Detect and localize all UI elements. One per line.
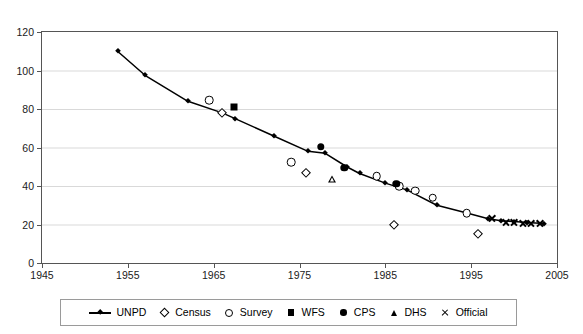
y-tick-label-100: 100 (0, 66, 34, 76)
y-tick-60 (37, 148, 41, 149)
data-markers (42, 32, 557, 263)
datapoint-unpd-12 (434, 202, 440, 208)
y-tick-label-120: 120 (0, 27, 34, 37)
datapoint-unpd-7 (322, 150, 328, 156)
x-tick-1965 (214, 264, 215, 268)
datapoint-unpd-1 (142, 72, 148, 78)
legend-item-survey[interactable]: Survey (224, 307, 273, 319)
datapoint-census-0 (217, 108, 227, 118)
open-diamond-icon (159, 307, 170, 319)
legend-item-census[interactable]: Census (159, 307, 211, 319)
open-triangle-icon (388, 307, 399, 319)
datapoint-survey-2 (372, 172, 381, 181)
chart-legend: UNPD Census Survey WFS (60, 299, 517, 326)
x-tick-1985 (385, 264, 386, 268)
x-tick-1955 (128, 264, 129, 268)
y-tick-label-60: 60 (0, 143, 34, 153)
line-diamond-icon (89, 307, 111, 319)
datapoint-unpd-5 (271, 133, 277, 139)
datapoint-official-5 (535, 219, 544, 228)
datapoint-census-3 (473, 229, 483, 239)
plot-area (41, 31, 558, 264)
x-tick-label-1955: 1955 (106, 270, 150, 280)
datapoint-survey-0 (205, 96, 214, 105)
legend-item-official[interactable]: Official (440, 307, 488, 319)
datapoint-survey-5 (428, 193, 437, 202)
datapoint-unpd-10 (382, 180, 388, 186)
datapoint-wfs-0 (231, 104, 238, 111)
chart-container: 120 100 80 60 40 20 0 1945 1955 1965 197… (0, 0, 583, 334)
x-tick-1995 (471, 264, 472, 268)
legend-label-census: Census (175, 307, 211, 318)
legend-label-dhs: DHS (404, 307, 426, 318)
x-tick-1945 (42, 264, 43, 268)
x-tick-label-1965: 1965 (192, 270, 236, 280)
filled-circle-icon (338, 307, 349, 319)
datapoint-cps-0 (317, 143, 324, 150)
filled-square-icon (286, 307, 297, 319)
x-tick-label-2005: 2005 (535, 270, 579, 280)
datapoint-unpd-2 (185, 98, 191, 104)
x-tick-label-1945: 1945 (20, 270, 64, 280)
legend-label-official: Official (456, 307, 488, 318)
open-circle-icon (224, 307, 235, 319)
datapoint-survey-4 (411, 187, 420, 196)
y-tick-80 (37, 109, 41, 110)
cross-icon (440, 307, 451, 319)
y-tick-120 (37, 32, 41, 33)
y-tick-label-0: 0 (0, 258, 34, 268)
legend-item-unpd[interactable]: UNPD (89, 307, 146, 319)
legend-label-survey: Survey (240, 307, 273, 318)
x-tick-1975 (300, 264, 301, 268)
y-tick-40 (37, 186, 41, 187)
x-tick-2005 (557, 264, 558, 268)
datapoint-survey-6 (463, 209, 472, 218)
legend-label-unpd: UNPD (116, 307, 146, 318)
datapoint-census-2 (389, 219, 399, 229)
x-tick-label-1975: 1975 (278, 270, 322, 280)
y-tick-20 (37, 225, 41, 226)
x-tick-label-1985: 1985 (363, 270, 407, 280)
y-tick-label-80: 80 (0, 104, 34, 114)
y-tick-label-20: 20 (0, 220, 34, 230)
datapoint-dhs-0 (328, 176, 336, 183)
datapoint-unpd-11 (404, 187, 410, 193)
datapoint-unpd-6 (305, 148, 311, 154)
y-tick-100 (37, 71, 41, 72)
datapoint-census-1 (300, 167, 310, 177)
datapoint-unpd-4 (232, 116, 238, 122)
datapoint-survey-1 (287, 158, 296, 167)
datapoint-official-0 (487, 213, 496, 222)
y-tick-0 (37, 263, 41, 264)
datapoint-unpd-0 (114, 48, 120, 54)
y-tick-label-40: 40 (0, 181, 34, 191)
datapoint-unpd-9 (356, 170, 362, 176)
legend-item-dhs[interactable]: DHS (388, 307, 426, 319)
x-tick-label-1995: 1995 (449, 270, 493, 280)
legend-label-wfs: WFS (302, 307, 325, 318)
legend-item-wfs[interactable]: WFS (286, 307, 325, 319)
legend-label-cps: CPS (354, 307, 376, 318)
legend-item-cps[interactable]: CPS (338, 307, 376, 319)
